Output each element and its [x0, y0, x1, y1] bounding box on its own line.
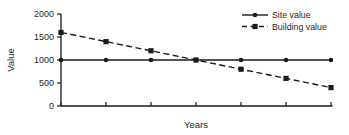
site-value-marker	[239, 58, 244, 63]
y-tick-label: 500	[39, 78, 54, 88]
line-chart-canvas: 0500100015002000ValueYearsSite valueBuil…	[0, 0, 349, 135]
legend-label: Building value	[272, 22, 327, 32]
y-tick-label: 0	[49, 101, 54, 111]
site-value-marker	[284, 58, 289, 63]
building-value-marker	[103, 39, 108, 44]
building-value-marker	[283, 76, 288, 81]
site-value-marker	[149, 58, 154, 63]
site-value-marker	[59, 58, 64, 63]
y-axis-title: Value	[5, 48, 16, 72]
legend-circle-marker-icon	[253, 13, 258, 18]
building-value-marker	[238, 67, 243, 72]
site-value-marker	[104, 58, 109, 63]
legend-label: Site value	[272, 10, 311, 20]
y-tick-label: 1500	[34, 32, 54, 42]
y-tick-label: 1000	[34, 55, 54, 65]
legend-square-marker-icon	[252, 24, 257, 29]
building-value-marker	[148, 48, 153, 53]
depreciation-line-chart: 0500100015002000ValueYearsSite valueBuil…	[0, 0, 349, 135]
building-value-marker	[328, 85, 333, 90]
x-axis-title: Years	[184, 119, 208, 130]
y-tick-label: 2000	[34, 9, 54, 19]
building-value-marker	[193, 57, 198, 62]
building-value-marker	[58, 30, 63, 35]
site-value-marker	[329, 58, 334, 63]
